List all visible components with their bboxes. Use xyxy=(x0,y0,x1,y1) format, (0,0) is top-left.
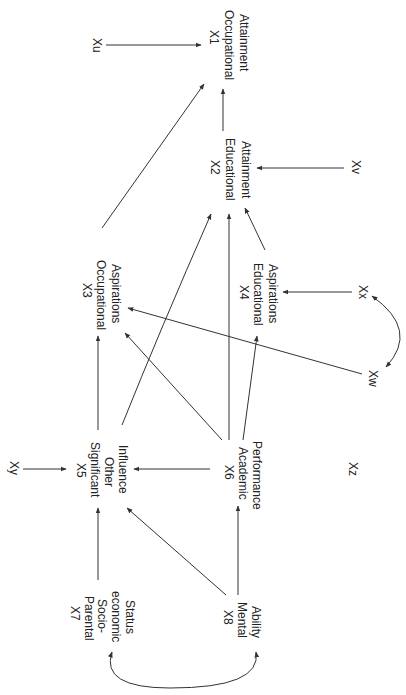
edge-x6-x4 xyxy=(243,336,257,440)
edge-x3-x1 xyxy=(102,84,204,228)
node-label-line: Ability xyxy=(249,606,262,638)
node-id: X5 xyxy=(74,463,87,478)
edge-x8-x5 xyxy=(127,508,226,595)
edge-x7-x8-correlation xyxy=(110,652,256,688)
node-label-line: Attainment xyxy=(237,14,250,71)
residual-xy: Xy xyxy=(7,461,20,475)
node-label-line: Occupational xyxy=(94,260,107,330)
node-label-line: economic xyxy=(109,591,122,642)
edge-xw-x3 xyxy=(128,308,362,374)
node-label-line: Mental xyxy=(235,602,248,638)
edge-x5-x2 xyxy=(122,214,211,425)
node-label-line: Occupational xyxy=(222,10,235,80)
node-id: X6 xyxy=(222,465,235,480)
node-id: X4 xyxy=(237,285,250,300)
node-label-line: Aspirations xyxy=(109,264,122,323)
edge-x4-x2 xyxy=(245,208,265,250)
edge-x6-x3 xyxy=(125,333,222,440)
residual-xx: Xx xyxy=(356,285,369,299)
node-label-line: Significant xyxy=(88,442,101,497)
node-label-line: Status xyxy=(123,600,136,634)
residual-xv: Xv xyxy=(349,160,362,174)
residual-xz: Xz xyxy=(346,462,359,476)
node-label-line: Influence xyxy=(116,445,129,494)
node-label-line: Parental xyxy=(82,596,95,641)
node-id: X8 xyxy=(221,610,234,625)
node-id: X7 xyxy=(68,606,81,621)
node-label-line: Performance xyxy=(250,441,263,510)
residual-xu: Xu xyxy=(90,38,103,53)
node-label-line: Socio- xyxy=(95,599,108,633)
node-id: X2 xyxy=(208,160,221,175)
node-label-line: Attainment xyxy=(239,141,252,198)
node-id: X1 xyxy=(207,30,220,45)
path-diagram xyxy=(0,0,406,695)
node-label-line: Educational xyxy=(223,138,236,201)
node-label-line: Academic xyxy=(236,447,249,500)
node-label-line: Educational xyxy=(251,263,264,326)
residual-xw: Xw xyxy=(366,370,379,387)
node-id: X3 xyxy=(80,283,93,298)
edge-xw-xx-correlation xyxy=(372,296,400,367)
node-label-line: Other xyxy=(102,457,115,487)
node-label-line: Aspirations xyxy=(266,264,279,323)
